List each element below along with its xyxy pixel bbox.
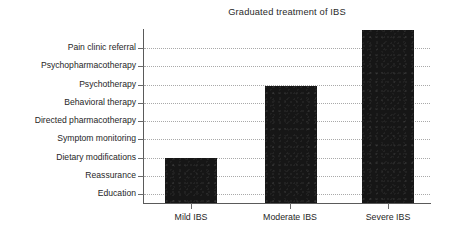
y-axis-tick-label: Behavioral therapy <box>64 98 136 107</box>
x-axis-tick-mark <box>290 203 291 209</box>
y-axis-tick-mark <box>138 85 144 86</box>
y-axis-tick-label: Psychotherapy <box>79 80 136 89</box>
chart-figure: Graduated treatment of IBS Pain clinic r… <box>0 0 450 241</box>
y-axis-tick-label: Symptom monitoring <box>57 134 136 143</box>
y-axis-tick-mark <box>138 66 144 67</box>
chart-title: Graduated treatment of IBS <box>144 7 430 17</box>
bar <box>265 86 317 203</box>
y-axis-tick-label: Directed pharmacotherapy <box>35 116 136 125</box>
y-axis-tick-label: Reassurance <box>85 171 136 180</box>
y-axis-tick-label: Education <box>98 189 136 198</box>
y-axis-tick-mark <box>138 158 144 159</box>
y-axis-tick-mark <box>138 176 144 177</box>
x-axis-tick-mark <box>388 203 389 209</box>
bar <box>362 30 414 203</box>
y-axis-tick-label: Dietary modifications <box>56 153 136 162</box>
x-axis-tick-label: Severe IBS <box>366 212 411 222</box>
plot-area <box>144 30 430 203</box>
y-axis-line <box>143 29 144 204</box>
y-axis-tick-mark <box>138 103 144 104</box>
bar <box>165 158 217 203</box>
bars-group <box>144 30 430 203</box>
y-axis-tick-mark <box>138 139 144 140</box>
y-axis-tick-label: Psychopharmacotherapy <box>41 61 136 70</box>
x-axis-tick-mark <box>191 203 192 209</box>
x-axis-tick-label: Mild IBS <box>175 212 208 222</box>
y-axis-tick-mark <box>138 121 144 122</box>
x-axis-tick-label: Moderate IBS <box>263 212 317 222</box>
y-axis-tick-mark <box>138 48 144 49</box>
y-axis-tick-label: Pain clinic referral <box>68 43 136 52</box>
y-axis-tick-mark <box>138 194 144 195</box>
